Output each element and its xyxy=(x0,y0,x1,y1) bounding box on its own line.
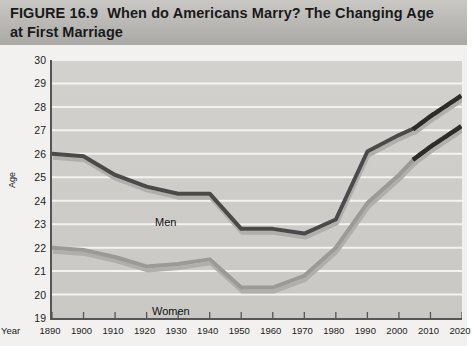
series-projection-men xyxy=(415,95,462,128)
chart-svg xyxy=(52,60,462,318)
x-tick-label: 2010 xyxy=(411,325,445,336)
x-tick-label: 1950 xyxy=(222,325,256,336)
y-tick-label: 27 xyxy=(24,125,46,135)
series-projection-shadow-women xyxy=(416,130,462,163)
y-tick-label: 25 xyxy=(24,172,46,182)
y-tick-label: 23 xyxy=(24,219,46,229)
figure-title-line2: at First Marriage xyxy=(10,23,459,42)
series-label-women: Women xyxy=(152,305,190,317)
x-tick-label: 1890 xyxy=(33,325,67,336)
x-tick-label: 1910 xyxy=(96,325,130,336)
y-tick-label: 24 xyxy=(24,196,46,206)
x-tick-label: 2020 xyxy=(443,325,475,336)
y-tick-label: 30 xyxy=(24,55,46,65)
x-axis-ticks: 1890190019101920193019401950196019701980… xyxy=(0,325,467,341)
x-tick-label: 1940 xyxy=(191,325,225,336)
x-tick-label: 1990 xyxy=(348,325,382,336)
x-tick-label: 1920 xyxy=(128,325,162,336)
plot-area: Men Women xyxy=(50,60,462,320)
x-tick-label: 2000 xyxy=(380,325,414,336)
y-tick-label: 26 xyxy=(24,149,46,159)
x-tick-label: 1980 xyxy=(317,325,351,336)
figure-title-line1: FIGURE 16.9When do Americans Marry? The … xyxy=(10,4,459,23)
x-tick-label: 1900 xyxy=(65,325,99,336)
series-projection-shadow-men xyxy=(416,99,462,132)
y-tick-label: 28 xyxy=(24,102,46,112)
figure-number: FIGURE 16.9 xyxy=(10,5,98,21)
figure-title-text: When do Americans Marry? The Changing Ag… xyxy=(107,5,434,21)
x-tick-label: 1960 xyxy=(254,325,288,336)
y-tick-label: 29 xyxy=(24,78,46,88)
y-tick-label: 22 xyxy=(24,243,46,253)
y-tick-label: 19 xyxy=(24,313,46,323)
y-axis-ticks: 302928272625242322212019 xyxy=(24,55,46,323)
figure-header: FIGURE 16.9When do Americans Marry? The … xyxy=(0,0,467,45)
x-tick-label: 1970 xyxy=(285,325,319,336)
y-tick-label: 20 xyxy=(24,290,46,300)
x-tick-label: 1930 xyxy=(159,325,193,336)
y-axis-label: Age xyxy=(7,160,17,200)
y-tick-label: 21 xyxy=(24,266,46,276)
series-label-men: Men xyxy=(155,216,176,228)
